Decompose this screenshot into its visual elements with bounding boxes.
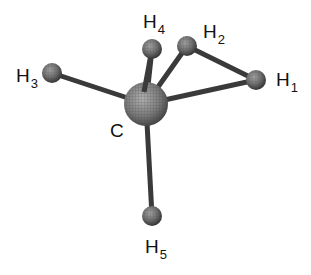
atom-symbol: H — [145, 236, 159, 257]
atom-h3 — [42, 63, 62, 83]
label-h2: H2 — [203, 22, 225, 41]
atom-h4 — [142, 39, 162, 59]
atom-h2 — [177, 36, 197, 56]
atom-subscript: 5 — [160, 247, 167, 262]
atom-symbol: C — [110, 120, 124, 141]
atoms-group — [42, 36, 266, 226]
atom-symbol: H — [143, 11, 157, 32]
label-c: C — [110, 121, 124, 140]
atom-subscript: 4 — [158, 22, 165, 37]
atom-h5 — [142, 206, 162, 226]
bond-h2-h1 — [187, 46, 256, 80]
molecule-diagram — [0, 0, 311, 275]
bonds-group — [52, 46, 256, 216]
atom-subscript: 3 — [31, 76, 38, 91]
label-h1: H1 — [276, 70, 298, 89]
atom-symbol: H — [16, 65, 30, 86]
atom-h1 — [246, 70, 266, 90]
atom-subscript: 1 — [291, 80, 298, 95]
atom-symbol: H — [203, 21, 217, 42]
atom-subscript: 2 — [218, 32, 225, 47]
label-h5: H5 — [145, 237, 167, 256]
atom-c — [124, 49, 168, 126]
label-h4: H4 — [143, 12, 165, 31]
atom-symbol: H — [276, 69, 290, 90]
label-h3: H3 — [16, 66, 38, 85]
